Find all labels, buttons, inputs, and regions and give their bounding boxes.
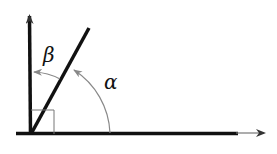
diagram-svg: β α: [0, 0, 277, 154]
beta-label: β: [42, 43, 55, 67]
alpha-label: α: [104, 70, 118, 94]
beta-arc: [34, 72, 60, 79]
vertical-axis: [30, 16, 31, 135]
angle-diagram: β α: [0, 0, 277, 154]
diagonal-ray: [31, 28, 89, 134]
